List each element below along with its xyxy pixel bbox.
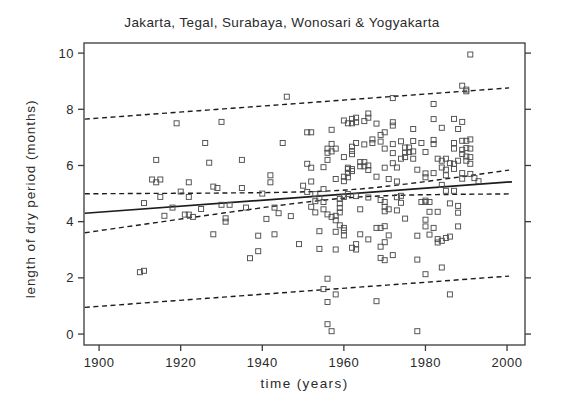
data-point [443,188,448,193]
data-point [158,194,163,199]
tick-labels: 0246810190019201940196019802000 [59,46,523,370]
upper-confidence-band [85,170,509,194]
data-point [460,119,465,124]
data-point [154,157,159,162]
data-point [452,141,457,146]
data-point [174,121,179,126]
data-point [427,209,432,214]
data-point [456,203,461,208]
data-point [394,179,399,184]
lower-confidence-band [85,194,509,233]
data-point [468,52,473,57]
data-point [370,137,375,142]
data-point [325,276,330,281]
data-point [280,141,285,146]
data-point [415,329,420,334]
data-point [399,139,404,144]
data-point [223,219,228,224]
lower-prediction-band [85,276,509,307]
data-point [288,214,293,219]
x-tick-label: 1980 [410,355,441,370]
data-point [260,191,265,196]
data-point [354,194,359,199]
data-point [284,94,289,99]
data-point [321,207,326,212]
chart-title: Jakarta, Tegal, Surabaya, Wonosari & Yog… [0,15,564,30]
data-point [390,120,395,125]
data-point [439,265,444,270]
data-point [341,155,346,160]
data-point [325,157,330,162]
data-point [317,229,322,234]
x-tick-label: 1960 [328,355,359,370]
data-point [390,151,395,156]
y-tick-label: 6 [66,158,74,173]
data-point [333,229,338,234]
data-point [321,165,326,170]
data-point [423,150,428,155]
data-point [460,171,465,176]
axis-ticks [78,53,531,351]
data-point [452,146,457,151]
data-point [456,127,461,132]
x-tick-label: 2000 [492,355,523,370]
data-point [394,208,399,213]
data-point [366,237,371,242]
data-point [358,207,363,212]
x-axis-label: time (years) [84,376,525,391]
data-point [423,272,428,277]
data-point [301,183,306,188]
data-point [219,119,224,124]
data-point [297,242,302,247]
data-point [329,127,334,132]
data-point [268,173,273,178]
data-point [207,160,212,165]
data-point [415,233,420,238]
data-point [386,233,391,238]
data-point [333,247,338,252]
y-tick-label: 2 [66,270,74,285]
data-point [268,180,273,185]
data-point [435,209,440,214]
data-point [423,224,428,229]
data-point [239,186,244,191]
data-point [272,232,277,237]
data-point [456,224,461,229]
y-tick-label: 4 [66,214,74,229]
data-point [431,225,436,230]
data-point [199,207,204,212]
data-point [313,210,318,215]
data-point [256,233,261,238]
data-point [325,322,330,327]
data-point [203,141,208,146]
data-point [390,123,395,128]
plot-area: 0246810190019201940196019802000 [0,0,564,419]
data-point [439,125,444,130]
y-tick-label: 10 [59,46,74,61]
data-point [362,142,367,147]
data-point [447,292,452,297]
x-tick-label: 1900 [84,355,115,370]
upper-prediction-band [85,88,509,119]
data-point [431,102,436,107]
data-point [447,201,452,206]
data-point [329,329,334,334]
data-point [399,200,404,205]
data-point [403,216,408,221]
data-point [256,249,261,254]
data-point [211,232,216,237]
data-point [427,232,432,237]
data-point [333,292,338,297]
x-tick-label: 1920 [165,355,196,370]
figure: 0246810190019201940196019802000 Jakarta,… [0,0,564,419]
data-point [186,194,191,199]
data-point [423,217,428,222]
data-point [378,139,383,144]
data-point [411,139,416,144]
data-point [276,211,281,216]
data-point [431,171,436,176]
data-point [419,141,424,146]
regression-line [85,182,512,213]
data-point [452,116,457,121]
data-point [162,213,167,218]
